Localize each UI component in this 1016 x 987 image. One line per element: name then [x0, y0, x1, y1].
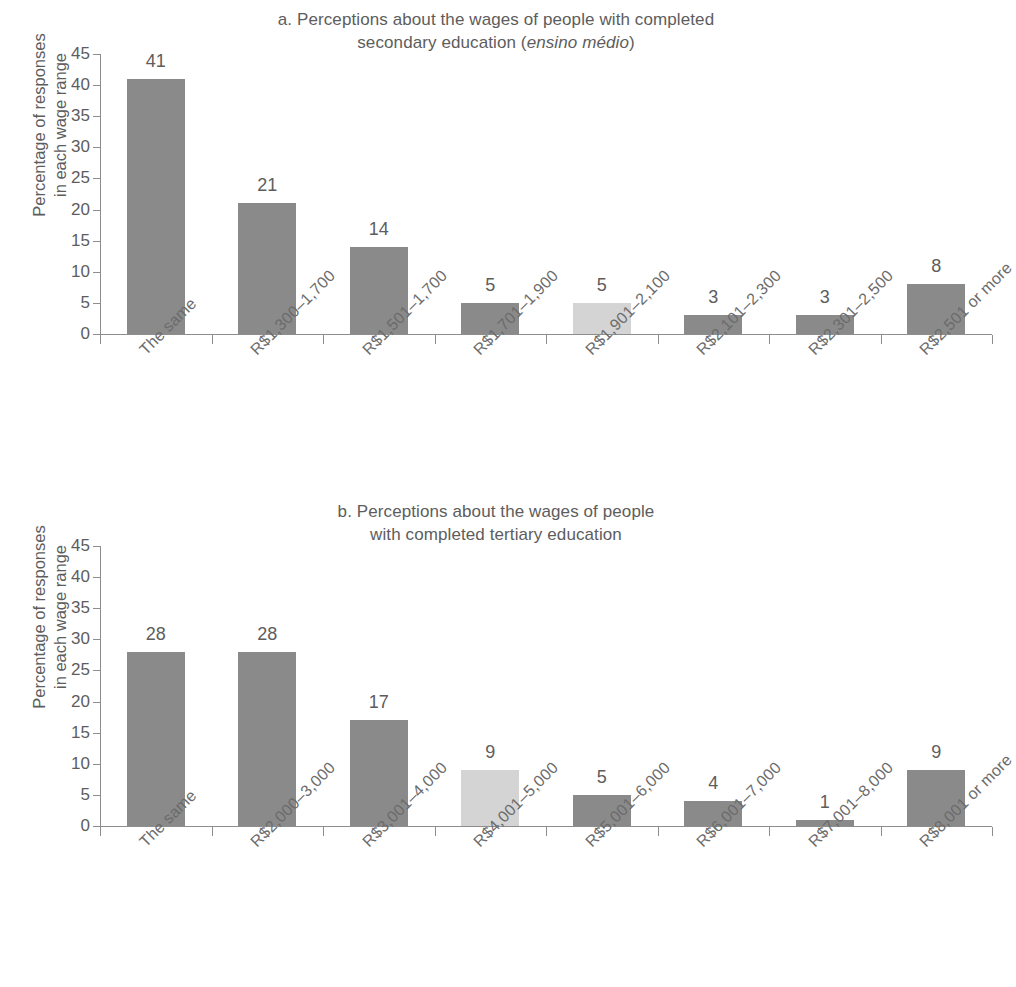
x-axis-tick-mark [435, 827, 436, 836]
y-axis-tick-labels: 051015202530354045 [52, 54, 90, 334]
x-axis-tick-mark [212, 335, 213, 344]
y-axis-tick-label: 25 [52, 168, 90, 188]
bar-value-label: 28 [146, 624, 166, 645]
x-axis-tick-mark [546, 827, 547, 836]
x-axis-tick-mark [100, 335, 101, 344]
x-axis-tick-labels: The sameR$2,000–3,000R$3,001–4,000R$4,00… [100, 838, 992, 978]
y-axis-tick-label: 15 [52, 723, 90, 743]
x-axis-tick-labels: The sameR$1,300–1,700R$1,501–1,700R$1,70… [100, 346, 992, 486]
bar-value-label: 5 [485, 275, 495, 296]
x-axis-tick-mark [769, 827, 770, 836]
y-axis-tick-label: 30 [52, 629, 90, 649]
y-axis-tick-label: 25 [52, 660, 90, 680]
x-axis-tick-mark [435, 335, 436, 344]
bar-value-label: 9 [931, 742, 941, 763]
bar-value-label: 4 [708, 773, 718, 794]
chart-a-title-line2-pre: secondary education ( [357, 33, 526, 52]
bar-value-label: 17 [369, 692, 389, 713]
x-axis-tick-mark [658, 827, 659, 836]
bar-value-label: 3 [820, 287, 830, 308]
bar-value-label: 14 [369, 219, 389, 240]
chart-a-title-line1: a. Perceptions about the wages of people… [278, 10, 714, 29]
chart-panel-b: b. Perceptions about the wages of people… [0, 492, 992, 987]
chart-panel-a: a. Perceptions about the wages of people… [0, 0, 992, 490]
y-axis-tick-label: 35 [52, 106, 90, 126]
y-axis-tick-label: 45 [52, 44, 90, 64]
y-axis-tick-label: 0 [52, 324, 90, 344]
bar-value-label: 1 [820, 792, 830, 813]
bar-value-label: 3 [708, 287, 718, 308]
chart-a-title-line2-italic: ensino médio [527, 33, 629, 52]
x-axis-tick-mark [992, 827, 993, 836]
x-axis-tick-mark [769, 335, 770, 344]
bar-group[interactable]: 41 [100, 54, 212, 334]
chart-b-title-line2-pre: with completed tertiary education [370, 525, 622, 544]
y-axis-tick-label: 20 [52, 692, 90, 712]
y-axis-tick-label: 0 [52, 816, 90, 836]
bar-value-label: 8 [931, 256, 941, 277]
y-axis-tick-label: 15 [52, 231, 90, 251]
y-axis-tick-label: 30 [52, 137, 90, 157]
bar-group[interactable]: 28 [100, 546, 212, 826]
bar-value-label: 28 [257, 624, 277, 645]
bar-value-label: 5 [597, 275, 607, 296]
x-axis-tick-mark [212, 827, 213, 836]
x-axis-tick-mark [323, 335, 324, 344]
chart-b-title: b. Perceptions about the wages of people… [0, 492, 992, 546]
y-axis-tick-label: 40 [52, 75, 90, 95]
bar-value-label: 5 [597, 767, 607, 788]
y-axis-tick-label: 5 [52, 785, 90, 805]
x-axis-tick-mark [546, 335, 547, 344]
x-axis-tick-mark [658, 335, 659, 344]
bar-value-label: 41 [146, 51, 166, 72]
x-axis-tick-mark [881, 827, 882, 836]
y-axis-tick-label: 40 [52, 567, 90, 587]
x-axis-tick-mark [100, 827, 101, 836]
chart-a-title: a. Perceptions about the wages of people… [0, 0, 992, 54]
bar-value-label: 21 [257, 175, 277, 196]
chart-b-plot: Percentage of responses in each wage ran… [0, 546, 992, 976]
chart-a-title-line2-post: ) [629, 33, 635, 52]
y-axis-tick-label: 35 [52, 598, 90, 618]
bar[interactable] [127, 79, 185, 334]
chart-b-title-line1: b. Perceptions about the wages of people [338, 502, 655, 521]
y-axis-tick-label: 10 [52, 262, 90, 282]
y-axis-tick-label: 10 [52, 754, 90, 774]
x-axis-tick-mark [881, 335, 882, 344]
bar-value-label: 9 [485, 742, 495, 763]
y-axis-tick-label: 45 [52, 536, 90, 556]
x-axis-tick-mark [992, 335, 993, 344]
y-axis-tick-labels: 051015202530354045 [52, 546, 90, 826]
y-axis-tick-label: 5 [52, 293, 90, 313]
x-axis-tick-mark [323, 827, 324, 836]
chart-a-plot: Percentage of responses in each wage ran… [0, 54, 992, 484]
y-axis-tick-label: 20 [52, 200, 90, 220]
